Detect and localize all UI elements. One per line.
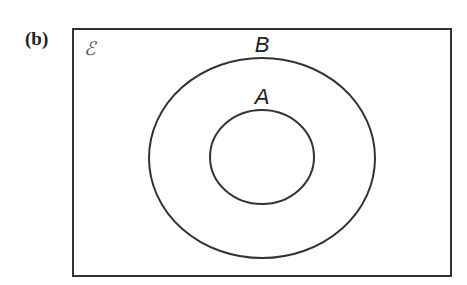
set-a-circle xyxy=(210,110,314,204)
set-a-label: A xyxy=(253,84,270,109)
venn-diagram: ℰ B A xyxy=(0,0,467,285)
universal-set-symbol: ℰ xyxy=(84,37,98,59)
set-b-label: B xyxy=(255,32,270,57)
universal-set-rectangle xyxy=(73,29,451,276)
